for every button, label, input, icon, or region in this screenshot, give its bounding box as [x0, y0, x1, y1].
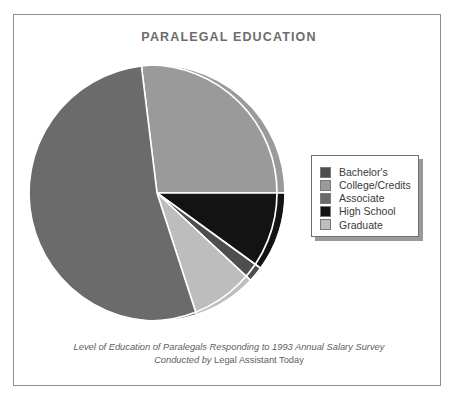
legend-item-label: Associate — [339, 193, 385, 204]
pie-slice-college-credits — [141, 65, 285, 193]
legend-swatch-icon — [320, 206, 331, 217]
caption-line-2: Conducted by Legal Assistant Today — [0, 354, 458, 367]
legend-swatch-icon — [320, 193, 331, 204]
figure-canvas: PARALEGAL EDUCATION Bachelor'sCollege/Cr… — [0, 0, 458, 411]
legend-item-graduate: Graduate — [320, 218, 383, 232]
legend-item-associate: Associate — [320, 191, 385, 205]
legend-item-label: Bachelor's — [339, 167, 388, 178]
legend-box: Bachelor'sCollege/CreditsAssociateHigh S… — [311, 155, 419, 237]
legend-item-label: College/Credits — [339, 180, 411, 191]
chart-title: PARALEGAL EDUCATION — [0, 30, 458, 44]
legend-swatch-icon — [320, 180, 331, 191]
legend-item-label: High School — [339, 206, 396, 217]
legend-item-college-credits: College/Credits — [320, 178, 411, 192]
caption-line-2-prefix: Conducted by — [154, 355, 214, 365]
pie-slice-group — [29, 65, 285, 321]
legend-item-high-school: High School — [320, 205, 396, 219]
figure-caption: Level of Education of Paralegals Respond… — [0, 341, 458, 367]
pie-chart — [22, 58, 302, 333]
caption-source-name: Legal Assistant Today — [214, 355, 304, 365]
caption-line-1: Level of Education of Paralegals Respond… — [0, 341, 458, 354]
legend: Bachelor'sCollege/CreditsAssociateHigh S… — [311, 155, 419, 237]
legend-item-bachelor-s: Bachelor's — [320, 165, 388, 179]
legend-swatch-icon — [320, 167, 331, 178]
pie-chart-svg — [22, 58, 302, 333]
legend-swatch-icon — [320, 219, 331, 230]
legend-item-label: Graduate — [339, 220, 383, 231]
